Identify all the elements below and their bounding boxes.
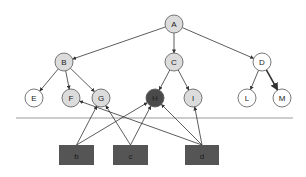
- source-box-c: c: [113, 145, 148, 165]
- source-boxes-layer: bcd: [59, 145, 219, 165]
- diagram-canvas: bcd ABCDEFGHILM: [0, 0, 306, 177]
- node-label: C: [171, 58, 177, 67]
- edge-c-to-h: [159, 70, 170, 90]
- tree-node-d: D: [253, 53, 271, 71]
- source-box-label: c: [129, 152, 133, 161]
- tree-node-l: L: [238, 89, 256, 107]
- edge-d-to-h: [161, 104, 202, 145]
- tree-node-h: H: [146, 89, 164, 107]
- tree-node-f: F: [62, 89, 80, 107]
- node-label: E: [31, 94, 36, 103]
- node-label: A: [171, 20, 177, 29]
- tree-node-b: B: [55, 53, 73, 71]
- tree-node-m: M: [273, 89, 291, 107]
- edges-layer: [40, 27, 278, 145]
- tree-nodes-layer: ABCDEFGHILM: [25, 15, 291, 107]
- node-label: M: [279, 94, 286, 103]
- node-label: I: [192, 94, 194, 103]
- edge-b-to-f: [66, 71, 70, 89]
- edge-c-to-i: [178, 70, 189, 90]
- source-box-b: b: [59, 145, 94, 165]
- edge-d-to-m: [266, 70, 277, 90]
- tree-node-a: A: [165, 15, 183, 33]
- edge-b-to-e: [40, 69, 58, 91]
- tree-node-i: I: [184, 89, 202, 107]
- node-label: B: [61, 58, 66, 67]
- node-label: H: [152, 94, 158, 103]
- node-label: D: [259, 58, 265, 67]
- tree-diagram: bcd ABCDEFGHILM: [0, 0, 306, 177]
- tree-node-c: C: [165, 53, 183, 71]
- node-label: L: [245, 94, 250, 103]
- source-box-d: d: [185, 145, 219, 165]
- edge-a-to-d: [182, 28, 253, 59]
- node-label: F: [69, 94, 74, 103]
- tree-node-e: E: [25, 89, 43, 107]
- tree-node-g: G: [92, 89, 110, 107]
- edge-d-to-f: [79, 101, 202, 145]
- source-box-label: d: [200, 152, 204, 161]
- edge-a-to-b: [73, 27, 166, 59]
- node-label: G: [98, 94, 104, 103]
- source-box-label: b: [74, 152, 79, 161]
- edge-d-to-l: [250, 70, 258, 89]
- edge-b-to-g: [70, 68, 94, 91]
